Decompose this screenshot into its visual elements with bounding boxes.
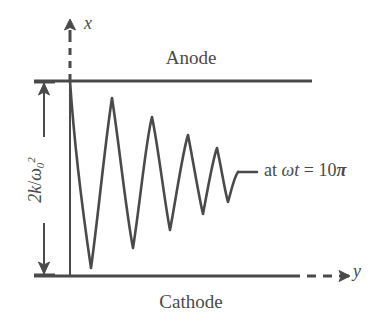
gap-label-numerator: 2k — [25, 186, 45, 203]
cathode-label: Cathode — [159, 292, 222, 311]
y-axis-label: y — [353, 262, 361, 280]
x-axis-label: x — [84, 14, 92, 32]
damped-oscillation-diagram: Anode Cathode x y 2k/ω02 at ωt = 10π — [0, 0, 383, 327]
gap-label-superscript: 2 — [25, 157, 37, 163]
phase-annotation: at ωt = 10π — [264, 161, 346, 179]
x-axis-arrowhead — [65, 19, 76, 30]
gap-label-slash: / — [25, 181, 45, 186]
gap-label-omega: ω — [25, 168, 45, 181]
annotation-pi: π — [336, 160, 346, 180]
anode-label: Anode — [166, 48, 217, 67]
gap-label-subscript: 0 — [34, 163, 46, 169]
annotation-prefix: at — [264, 160, 282, 180]
annotation-equals: = — [299, 160, 318, 180]
electrode-gap-label: 2k/ω02 — [26, 157, 46, 203]
annotation-omega: ω — [282, 160, 295, 180]
annotation-value: 10 — [318, 160, 336, 180]
damped-oscillation-curve — [70, 81, 238, 268]
